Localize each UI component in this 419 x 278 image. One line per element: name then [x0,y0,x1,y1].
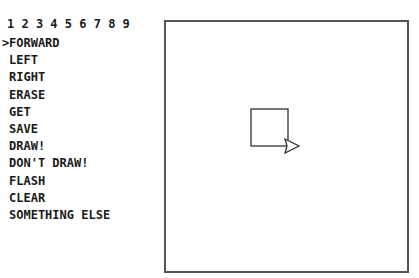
selection-cursor: > [2,35,9,52]
menu-item-clear[interactable]: CLEAR [2,190,110,207]
drawn-square [251,109,288,146]
menu-item-save[interactable]: SAVE [2,121,110,138]
menu-item-dont-draw[interactable]: DON'T DRAW! [2,155,110,172]
menu-item-something-else[interactable]: SOMETHING ELSE [2,207,110,224]
drawing-canvas[interactable] [164,20,409,273]
number-key-row: 1 2 3 4 5 6 7 8 9 [7,17,130,31]
menu-item-draw[interactable]: DRAW! [2,138,110,155]
menu-item-right[interactable]: RIGHT [2,69,110,86]
menu-item-forward[interactable]: >FORWARD [2,35,110,52]
menu-item-flash[interactable]: FLASH [2,173,110,190]
menu-item-get[interactable]: GET [2,104,110,121]
command-menu: >FORWARD LEFT RIGHT ERASE GET SAVE DRAW!… [2,35,110,224]
menu-item-left[interactable]: LEFT [2,52,110,69]
menu-item-erase[interactable]: ERASE [2,87,110,104]
turtle-icon [285,139,299,153]
